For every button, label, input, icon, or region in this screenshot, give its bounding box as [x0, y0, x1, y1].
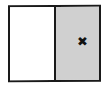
x-mark-icon: ✖	[77, 37, 87, 47]
two-panel-box: ✖	[8, 5, 101, 82]
left-panel-empty	[10, 7, 56, 80]
right-panel-shaded: ✖	[56, 7, 99, 80]
